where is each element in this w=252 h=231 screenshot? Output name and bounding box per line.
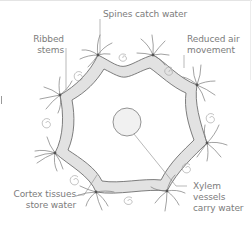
label-ribbed-line1: Ribbed [30, 34, 64, 45]
swirl-icon [70, 176, 78, 185]
label-ribbed-stems: Ribbed stems [30, 34, 64, 56]
swirl-icon [206, 114, 214, 123]
swirl-icon [42, 119, 50, 128]
swirl-icon [182, 164, 190, 173]
swirl-icon [124, 197, 132, 205]
label-cortex-line2: store water [2, 200, 76, 211]
label-xylem-line2: vessels [193, 192, 243, 203]
label-xylem-line1: Xylem [193, 181, 243, 192]
label-ribbed-line2: stems [30, 45, 64, 56]
xylem-center [113, 108, 141, 136]
label-xylem-line3: carry water [193, 203, 243, 214]
label-reduced-air-movement: Reduced air movement [187, 34, 239, 56]
label-spines-catch-water: Spines catch water [103, 9, 187, 20]
swirl-icon [119, 54, 126, 61]
label-reduced-line1: Reduced air [187, 34, 239, 45]
label-reduced-line2: movement [187, 45, 239, 56]
label-cortex-tissues: Cortex tissues store water [2, 189, 76, 211]
label-cortex-line1: Cortex tissues [2, 189, 76, 200]
label-xylem-vessels: Xylem vessels carry water [193, 181, 243, 214]
